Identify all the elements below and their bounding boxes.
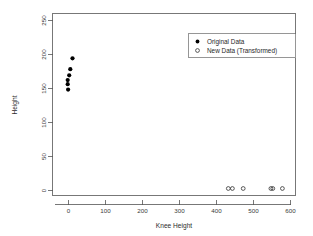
y-tick-label: 50 bbox=[40, 153, 47, 160]
legend: Original Data New Data (Transformed) bbox=[189, 34, 296, 58]
data-point bbox=[67, 73, 71, 77]
y-axis-title: Height bbox=[11, 95, 19, 114]
x-tick-label: 100 bbox=[100, 207, 111, 214]
x-tick-label: 500 bbox=[248, 207, 259, 214]
y-tick-label: 0 bbox=[40, 188, 47, 192]
y-tick-label: 150 bbox=[40, 83, 47, 94]
y-tick-label: 100 bbox=[40, 117, 47, 128]
data-point bbox=[66, 82, 70, 86]
data-point bbox=[68, 67, 72, 71]
legend-entry-new-data-transformed: New Data (Transformed) bbox=[196, 47, 277, 55]
x-tick-label: 200 bbox=[137, 207, 148, 214]
scatter-plot-figure: 0 50 100 150 200 250 bbox=[0, 0, 313, 236]
legend-label: Original Data bbox=[207, 38, 245, 46]
data-point bbox=[66, 88, 70, 92]
x-tick-label: 400 bbox=[211, 207, 222, 214]
legend-label: New Data (Transformed) bbox=[207, 47, 277, 55]
x-tick-label: 600 bbox=[285, 207, 296, 214]
legend-marker-filled-circle-icon bbox=[196, 40, 200, 44]
x-axis-title: Knee Height bbox=[156, 222, 192, 230]
x-tick-label: 300 bbox=[174, 207, 185, 214]
data-point bbox=[70, 56, 74, 60]
y-tick-label: 250 bbox=[40, 15, 47, 26]
x-tick-label: 0 bbox=[67, 207, 71, 214]
y-tick-label: 200 bbox=[40, 49, 47, 60]
data-point bbox=[66, 78, 70, 82]
plot-canvas: 0 50 100 150 200 250 bbox=[0, 0, 313, 236]
